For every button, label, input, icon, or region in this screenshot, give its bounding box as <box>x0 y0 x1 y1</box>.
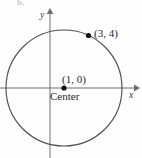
part-label: b. <box>17 0 25 7</box>
center-text-label: Center <box>50 91 79 102</box>
circle-point-marker <box>86 33 91 38</box>
circle-diagram-figure: b. y x (3, 4) (1, 0) Center <box>0 0 142 158</box>
y-axis-arrow-icon <box>47 8 54 14</box>
x-axis-arrow-icon <box>134 85 140 92</box>
point-on-circle-label: (3, 4) <box>94 28 118 39</box>
y-axis-label: y <box>40 10 44 20</box>
x-axis-label: x <box>129 90 133 100</box>
center-coordinate-label: (1, 0) <box>62 74 86 85</box>
